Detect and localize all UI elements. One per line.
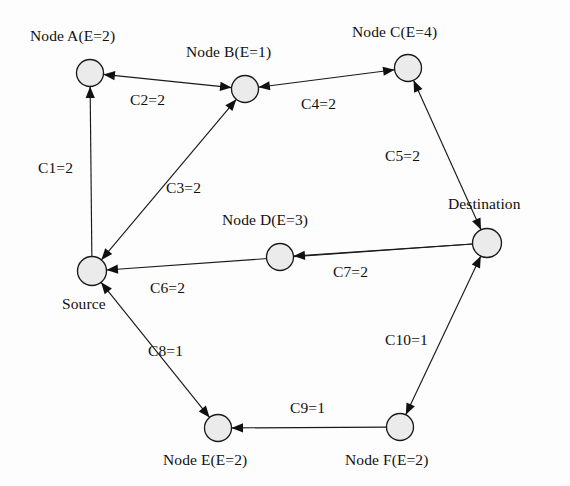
edge-cost-label-c7: C7=2 — [333, 264, 368, 280]
edge-cost-label-c8: C8=1 — [148, 343, 183, 359]
node-destination[interactable] — [473, 229, 502, 258]
edge-line-C1 — [90, 86, 92, 256]
node-label-source: Source — [62, 296, 106, 312]
node-source[interactable] — [78, 257, 107, 286]
arrowhead-C10-to-Destination — [472, 256, 481, 268]
arrowhead-C8-to-Source — [101, 282, 112, 294]
arrowhead-C10-to-F — [406, 402, 415, 414]
node-label-d: Node D(E=3) — [222, 212, 308, 228]
arrowhead-C3-to-Source — [101, 248, 112, 260]
edge-cost-label-c1: C1=2 — [38, 160, 73, 176]
node-label-c: Node C(E=4) — [352, 24, 437, 40]
arrowhead-C6-to-Source — [106, 265, 118, 274]
edge-cost-label-c4: C4=2 — [301, 96, 336, 112]
node-c[interactable] — [395, 55, 422, 82]
node-label-e: Node E(E=2) — [163, 452, 247, 468]
edge-cost-label-c5: C5=2 — [385, 148, 420, 164]
edge-cost-label-c2: C2=2 — [130, 92, 165, 108]
node-label-destination: Destination — [448, 196, 521, 212]
node-e[interactable] — [205, 415, 232, 442]
graph-canvas — [0, 0, 570, 486]
edge-C7[interactable] — [293, 244, 472, 260]
arrowhead-C8-to-E — [199, 406, 210, 418]
edge-C4[interactable] — [258, 67, 394, 91]
arrowhead-C3-to-B — [225, 99, 236, 111]
arrowhead-C4-to-C — [383, 67, 395, 76]
node-label-f: Node F(E=2) — [345, 452, 428, 468]
edge-line-C4 — [258, 70, 394, 88]
node-f[interactable] — [387, 414, 414, 441]
edge-cost-label-c9: C9=1 — [290, 400, 325, 416]
edge-C1[interactable] — [86, 86, 95, 256]
edge-line-C9 — [231, 427, 386, 428]
arrowhead-C4-to-B — [258, 81, 270, 90]
edge-cost-label-c6: C6=2 — [150, 280, 185, 296]
network-diagram: Node A(E=2)Node B(E=1)Node C(E=4)Node D(… — [0, 0, 570, 486]
node-d[interactable] — [267, 244, 294, 271]
edge-line-C2 — [103, 74, 231, 87]
arrowhead-C5-to-Destination — [472, 217, 481, 229]
edge-line-C7 — [293, 244, 472, 256]
edge-C9[interactable] — [231, 423, 386, 432]
arrowhead-C9-to-E — [231, 423, 243, 432]
arrowhead-C2-to-B — [220, 82, 232, 91]
arrowhead-C7-to-D — [293, 251, 305, 260]
edge-cost-label-c3: C3=2 — [166, 180, 201, 196]
arrowhead-C1-to-A — [86, 86, 95, 98]
node-b[interactable] — [232, 76, 259, 103]
node-label-b: Node B(E=1) — [186, 44, 271, 60]
edge-C2[interactable] — [103, 71, 231, 91]
arrowhead-C5-to-C — [414, 80, 423, 92]
node-label-a: Node A(E=2) — [30, 28, 115, 44]
node-a[interactable] — [77, 60, 104, 87]
edge-cost-label-c10: C10=1 — [385, 332, 428, 348]
arrowhead-C2-to-A — [103, 71, 115, 80]
